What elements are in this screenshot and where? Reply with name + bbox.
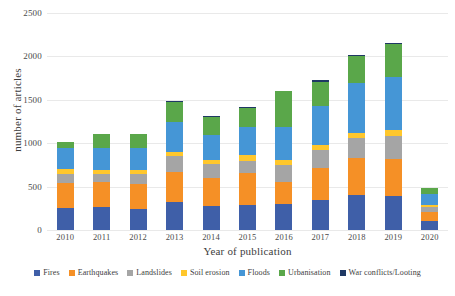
legend-item[interactable]: Fires bbox=[34, 268, 60, 277]
bar-segment[interactable] bbox=[348, 195, 365, 230]
stacked-bar[interactable] bbox=[93, 134, 110, 230]
bar-segment[interactable] bbox=[166, 202, 183, 230]
bar-segment[interactable] bbox=[421, 221, 438, 230]
legend-item[interactable]: Urbanisation bbox=[279, 268, 331, 277]
bar-segment[interactable] bbox=[166, 122, 183, 152]
gridline: 0 bbox=[47, 230, 448, 231]
stacked-bar[interactable] bbox=[348, 55, 365, 230]
bar-segment[interactable] bbox=[348, 56, 365, 84]
stacked-bar[interactable] bbox=[203, 116, 220, 230]
bar-segment[interactable] bbox=[421, 194, 438, 205]
legend-item[interactable]: Floods bbox=[239, 268, 270, 277]
x-axis-tick-label: 2014 bbox=[193, 232, 229, 242]
stacked-bar[interactable] bbox=[239, 107, 256, 230]
bar-segment[interactable] bbox=[385, 159, 402, 196]
legend-label: Fires bbox=[43, 268, 60, 277]
legend-label: Earthquakes bbox=[78, 268, 119, 277]
plot-area: 05001000150020002500 bbox=[47, 13, 448, 230]
bar-segment[interactable] bbox=[203, 206, 220, 230]
bar-segment[interactable] bbox=[385, 77, 402, 130]
bar-segment[interactable] bbox=[275, 204, 292, 230]
bar-segment[interactable] bbox=[93, 207, 110, 230]
bar-segment[interactable] bbox=[203, 164, 220, 177]
bar-segment[interactable] bbox=[385, 44, 402, 77]
legend-label: Landslides bbox=[136, 268, 172, 277]
legend-swatch-icon bbox=[239, 270, 245, 276]
y-axis-tick-label: 2000 bbox=[23, 51, 42, 61]
bar-segment[interactable] bbox=[239, 108, 256, 127]
bars-group bbox=[47, 13, 448, 230]
bar-segment[interactable] bbox=[93, 134, 110, 148]
bar-segment[interactable] bbox=[312, 106, 329, 145]
bar-column bbox=[84, 13, 120, 230]
bar-segment[interactable] bbox=[130, 134, 147, 148]
bar-segment[interactable] bbox=[385, 196, 402, 230]
x-axis-tick-label: 2019 bbox=[375, 232, 411, 242]
bar-segment[interactable] bbox=[130, 209, 147, 230]
bar-column bbox=[375, 13, 411, 230]
bar-segment[interactable] bbox=[203, 178, 220, 206]
bar-segment[interactable] bbox=[93, 148, 110, 170]
stacked-bar[interactable] bbox=[385, 43, 402, 230]
bar-segment[interactable] bbox=[166, 172, 183, 202]
bar-segment[interactable] bbox=[239, 161, 256, 173]
legend-item[interactable]: War conflicts/Looting bbox=[340, 268, 421, 277]
chart-legend: FiresEarthquakesLandslidesSoil erosionFl… bbox=[0, 268, 455, 277]
x-axis-tick-label: 2011 bbox=[84, 232, 120, 242]
x-axis-tick-label: 2017 bbox=[302, 232, 338, 242]
bar-segment[interactable] bbox=[312, 168, 329, 200]
bar-column bbox=[157, 13, 193, 230]
bar-segment[interactable] bbox=[57, 174, 74, 184]
bar-segment[interactable] bbox=[130, 148, 147, 170]
bar-segment[interactable] bbox=[275, 91, 292, 127]
stacked-bar[interactable] bbox=[130, 134, 147, 230]
bar-segment[interactable] bbox=[57, 208, 74, 230]
bar-segment[interactable] bbox=[348, 138, 365, 158]
legend-swatch-icon bbox=[181, 270, 187, 276]
bar-segment[interactable] bbox=[93, 174, 110, 182]
bar-segment[interactable] bbox=[275, 127, 292, 160]
legend-swatch-icon bbox=[127, 270, 133, 276]
bar-segment[interactable] bbox=[166, 156, 183, 172]
bar-segment[interactable] bbox=[421, 212, 438, 222]
bar-segment[interactable] bbox=[203, 117, 220, 135]
bar-segment[interactable] bbox=[239, 205, 256, 230]
bar-segment[interactable] bbox=[93, 182, 110, 207]
bar-column bbox=[302, 13, 338, 230]
bar-segment[interactable] bbox=[312, 82, 329, 106]
x-axis-tick-label: 2015 bbox=[229, 232, 265, 242]
bar-segment[interactable] bbox=[239, 173, 256, 205]
chart-container: number of articles 05001000150020002500 … bbox=[0, 0, 455, 296]
stacked-bar[interactable] bbox=[57, 142, 74, 230]
bar-segment[interactable] bbox=[203, 135, 220, 159]
x-axis-tick-labels: 2010201120122013201420152016201720182019… bbox=[47, 232, 448, 242]
legend-label: Soil erosion bbox=[190, 268, 230, 277]
bar-column bbox=[339, 13, 375, 230]
bar-segment[interactable] bbox=[312, 150, 329, 168]
bar-segment[interactable] bbox=[348, 83, 365, 132]
stacked-bar[interactable] bbox=[421, 188, 438, 230]
bar-column bbox=[266, 13, 302, 230]
legend-item[interactable]: Soil erosion bbox=[181, 268, 230, 277]
bar-segment[interactable] bbox=[57, 183, 74, 208]
bar-segment[interactable] bbox=[57, 148, 74, 169]
stacked-bar[interactable] bbox=[275, 91, 292, 230]
legend-item[interactable]: Landslides bbox=[127, 268, 172, 277]
legend-label: War conflicts/Looting bbox=[349, 268, 421, 277]
stacked-bar[interactable] bbox=[166, 101, 183, 230]
bar-segment[interactable] bbox=[275, 165, 292, 182]
stacked-bar[interactable] bbox=[312, 80, 329, 230]
y-axis-tick-label: 2500 bbox=[23, 8, 42, 18]
legend-item[interactable]: Earthquakes bbox=[69, 268, 119, 277]
bar-segment[interactable] bbox=[239, 127, 256, 156]
bar-segment[interactable] bbox=[166, 102, 183, 122]
bar-segment[interactable] bbox=[385, 136, 402, 159]
y-axis-tick-label: 0 bbox=[37, 225, 42, 235]
bar-segment[interactable] bbox=[348, 158, 365, 195]
y-axis-title: number of articles bbox=[11, 45, 23, 175]
bar-segment[interactable] bbox=[312, 200, 329, 230]
bar-segment[interactable] bbox=[130, 184, 147, 209]
bar-column bbox=[47, 13, 83, 230]
bar-segment[interactable] bbox=[130, 174, 147, 184]
bar-segment[interactable] bbox=[275, 182, 292, 204]
